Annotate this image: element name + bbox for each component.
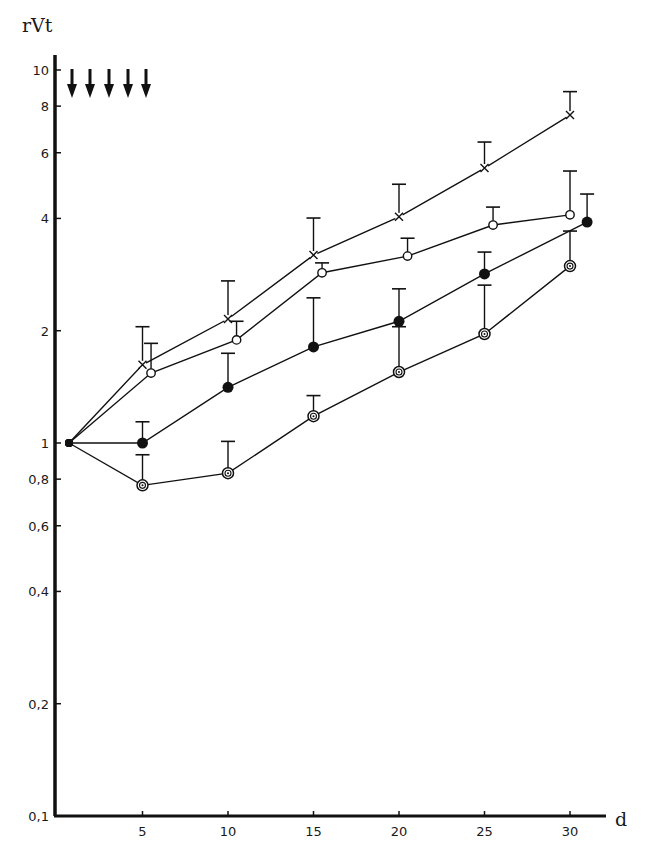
series-line [69,115,570,443]
y-tick-label: 0,6 [28,519,49,534]
y-tick-label: 0,2 [28,697,49,712]
line-chart: 0,10,20,40,60,8124681051015202530 rVt d [0,0,648,865]
y-tick-label: 1 [41,436,49,451]
filled-circle-marker-icon [479,268,490,279]
series-line [69,215,570,443]
open-circle-marker-icon [318,269,326,277]
y-tick-label: 2 [41,324,49,339]
x-axis-title: d [615,808,627,830]
filled-circle-marker-icon [137,438,148,449]
target-circle-dot [484,333,486,335]
down-arrow-head-icon [123,84,133,98]
y-tick-label: 4 [41,211,49,226]
y-tick-label: 8 [41,99,49,114]
down-arrow-head-icon [104,84,114,98]
x-tick-label: 15 [305,824,322,839]
y-tick-label: 10 [32,63,49,78]
open-circle-marker-icon [566,211,574,219]
treatment-arrows [67,69,151,98]
filled-circle-marker-icon [582,217,593,228]
x-tick-label: 30 [562,824,579,839]
series-line [69,266,570,485]
series-filled-circle [65,194,594,448]
data-series [65,92,594,491]
down-arrow-head-icon [67,84,77,98]
filled-circle-marker-icon [394,316,405,327]
series-open-circle [65,171,577,447]
down-arrow-head-icon [85,84,95,98]
start-point-marker [65,439,73,447]
x-tick-label: 5 [138,824,146,839]
target-circle-dot [313,415,315,417]
open-circle-marker-icon [403,252,411,260]
y-tick-label: 0,4 [28,584,49,599]
axes: 0,10,20,40,60,8124681051015202530 [28,55,606,839]
target-circle-dot [569,265,571,267]
y-tick-label: 0,1 [28,809,49,824]
filled-circle-marker-icon [223,382,234,393]
open-circle-marker-icon [489,221,497,229]
y-tick-label: 6 [41,146,49,161]
target-circle-dot [227,472,229,474]
target-circle-dot [398,371,400,373]
target-circle-dot [142,484,144,486]
y-axis-title: rVt [22,14,53,36]
x-tick-label: 20 [391,824,408,839]
down-arrow-head-icon [141,84,151,98]
open-circle-marker-icon [232,336,240,344]
series-line [69,222,587,443]
x-tick-label: 25 [476,824,493,839]
open-circle-marker-icon [147,369,155,377]
filled-circle-marker-icon [308,341,319,352]
y-tick-label: 0,8 [28,472,49,487]
x-tick-label: 10 [220,824,237,839]
